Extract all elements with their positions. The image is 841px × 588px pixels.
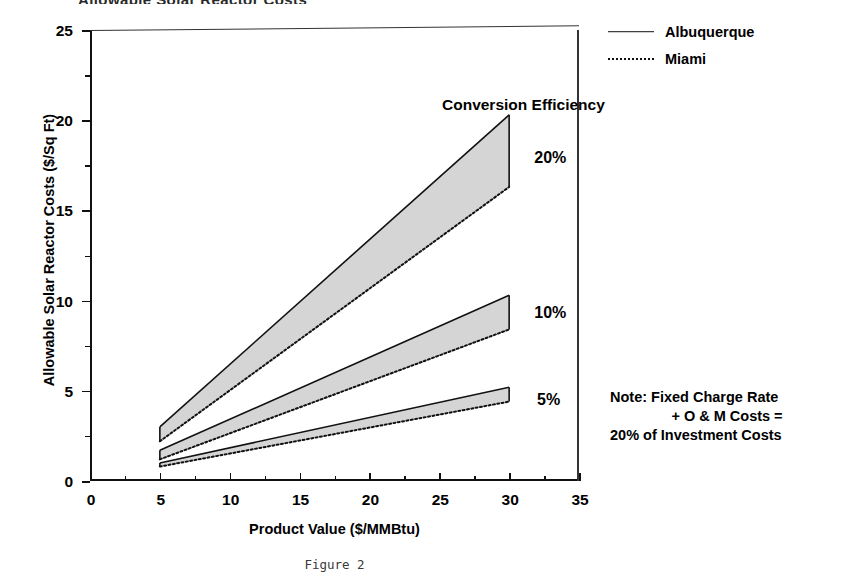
legend-label: Albuquerque (665, 24, 754, 40)
band-upper-line (160, 387, 509, 463)
band-fill (160, 295, 509, 459)
x-tick-label: 35 (571, 491, 588, 509)
band-20pct (160, 115, 509, 442)
x-tick-label: 20 (362, 491, 379, 509)
x-tick-label: 0 (87, 491, 96, 509)
chart-title: Allowable Solar Reactor Costs (78, 0, 498, 4)
legend-item-albuquerque[interactable]: Albuquerque (608, 18, 754, 45)
x-tick: 5 (160, 473, 162, 481)
x-minor-tick (335, 476, 337, 481)
y-tick: 0 (82, 481, 90, 483)
efficiency-label-5pct: 5% (537, 391, 560, 409)
x-tick-label: 30 (502, 491, 519, 509)
note-line-3: 20% of Investment Costs (610, 426, 838, 445)
band-lower-line (160, 402, 509, 467)
y-minor-tick (85, 346, 90, 348)
x-minor-tick (265, 476, 267, 481)
y-minor-tick (85, 256, 90, 258)
y-tick-label: 5 (64, 383, 73, 401)
note-block: Note: Fixed Charge Rate + O & M Costs = … (610, 388, 838, 445)
plot-area: 051015202505101520253035 20%10%5% Conver… (90, 30, 579, 481)
legend-swatch-dotted (608, 53, 654, 65)
x-tick: 35 (579, 473, 581, 481)
x-minor-tick (195, 476, 197, 481)
figure-container: Allowable Solar Reactor Costs Allowable … (0, 0, 841, 588)
x-minor-tick (544, 476, 546, 481)
legend-label: Miami (665, 51, 706, 67)
figure-caption: Figure 2 (90, 557, 579, 572)
y-minor-tick (85, 75, 90, 77)
x-tick: 20 (369, 473, 371, 481)
x-tick-label: 10 (222, 491, 239, 509)
x-tick: 10 (230, 473, 232, 481)
y-minor-tick (85, 165, 90, 167)
x-tick-label: 25 (432, 491, 449, 509)
y-tick: 10 (82, 301, 90, 303)
x-minor-tick (125, 476, 127, 481)
y-tick-label: 15 (56, 202, 73, 220)
y-tick-label: 25 (56, 22, 73, 40)
efficiency-label-20pct: 20% (534, 149, 566, 167)
band-fill (160, 387, 509, 466)
group-label: Conversion Efficiency (442, 96, 605, 114)
band-lower-line (160, 329, 509, 459)
band-upper-line (160, 295, 509, 450)
y-tick: 5 (82, 391, 90, 393)
x-tick: 0 (90, 473, 92, 481)
legend-item-miami[interactable]: Miami (608, 45, 754, 72)
band-fill (160, 115, 509, 442)
x-tick-label: 15 (292, 491, 309, 509)
y-minor-tick (85, 436, 90, 438)
band-10pct (160, 295, 509, 459)
y-tick-label: 0 (64, 473, 73, 491)
y-tick: 15 (82, 210, 90, 212)
x-minor-tick (474, 476, 476, 481)
x-tick: 15 (300, 473, 302, 481)
y-tick-label: 10 (56, 293, 73, 311)
band-lower-line (160, 187, 509, 441)
note-line-2: + O & M Costs = (610, 407, 838, 426)
y-tick-label: 20 (56, 112, 73, 130)
x-tick: 30 (509, 473, 511, 481)
legend: AlbuquerqueMiami (608, 18, 754, 72)
y-axis-line (90, 30, 92, 481)
y-axis-title: Allowable Solar Reactor Costs ($/Sq Ft) (41, 40, 57, 460)
legend-swatch-solid (608, 26, 654, 38)
x-tick: 25 (439, 473, 441, 481)
plot-top-border (90, 25, 579, 31)
x-minor-tick (404, 476, 406, 481)
y-tick: 20 (82, 120, 90, 122)
y-tick: 25 (82, 30, 90, 32)
note-line-1: Note: Fixed Charge Rate (610, 388, 838, 407)
efficiency-label-10pct: 10% (534, 304, 566, 322)
band-5pct (160, 387, 509, 466)
x-axis-title: Product Value ($/MMBtu) (90, 521, 579, 537)
band-upper-line (160, 115, 509, 427)
x-tick-label: 5 (157, 491, 166, 509)
